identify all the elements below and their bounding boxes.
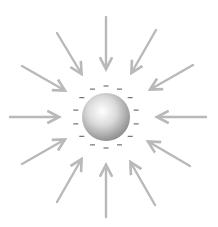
arrow-left-lower — [22, 140, 64, 164]
arrow-left-upper — [22, 66, 64, 90]
arrow-right-lower — [149, 142, 190, 166]
arrow-upper-right — [132, 30, 156, 72]
charged-sphere — [82, 93, 130, 141]
arrow-lower-right — [131, 163, 155, 205]
field-diagram — [0, 0, 218, 227]
arrow-lower-left — [57, 160, 81, 202]
arrow-upper-left — [57, 33, 81, 73]
arrow-right-upper — [151, 65, 193, 89]
